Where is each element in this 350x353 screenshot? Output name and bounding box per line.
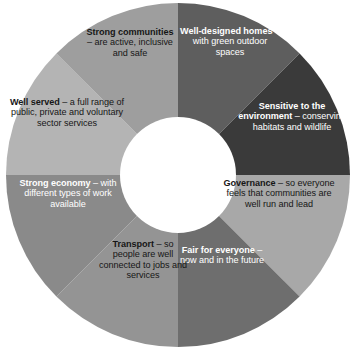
donut-center-hole: [120, 117, 236, 233]
sustainable-community-wheel: Well-designed homes – with green outdoor…: [0, 0, 350, 353]
donut-chart-svg: [0, 0, 350, 353]
